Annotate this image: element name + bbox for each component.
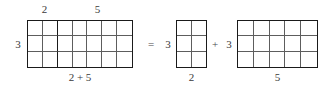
rect-b-cell <box>238 21 254 36</box>
sum-rect-cell <box>102 21 117 36</box>
sum-rect-top-label-left: 2 <box>27 3 62 15</box>
rect-b-cell <box>285 52 301 67</box>
rect-a-cell <box>177 52 192 67</box>
rect-b-cell <box>270 52 286 67</box>
rect-a-grid <box>176 20 207 68</box>
rect-b-cell <box>270 21 286 36</box>
sum-rect-cell <box>43 21 58 36</box>
rect-b-cell <box>254 21 270 36</box>
rect-b-cell <box>270 36 286 51</box>
rect-b-cell <box>238 36 254 51</box>
sum-rect-cell <box>87 21 102 36</box>
rect-b-bottom-label: 5 <box>237 71 318 83</box>
sum-rect-cell <box>117 36 132 51</box>
rect-b-cell <box>254 36 270 51</box>
rect-a-cell <box>192 36 207 51</box>
rect-a-cell <box>177 21 192 36</box>
sum-rect-cell <box>43 36 58 51</box>
sum-rect-cell <box>73 52 88 67</box>
sum-rect-bottom-label: 2 + 5 <box>53 71 107 83</box>
rect-b-cell <box>301 52 317 67</box>
rect-b-left-label: 3 <box>223 38 235 50</box>
sum-rectangle-grid <box>27 20 133 68</box>
rect-a-left-label: 3 <box>162 38 174 50</box>
sum-rect-cell <box>58 21 73 36</box>
sum-rect-cell <box>58 52 73 67</box>
rect-b-cell <box>254 52 270 67</box>
sum-rect-cell <box>73 36 88 51</box>
sum-rect-cell <box>43 52 58 67</box>
area-model-figure: 2 5 3 2 + 5 = 3 2 + 3 5 <box>0 0 329 89</box>
rect-b-cell <box>285 36 301 51</box>
rect-b-cell <box>301 21 317 36</box>
rect-a-cell <box>177 36 192 51</box>
sum-rect-cell <box>87 52 102 67</box>
sum-rect-cell <box>102 52 117 67</box>
sum-rect-cell <box>117 52 132 67</box>
rect-b-cell <box>301 36 317 51</box>
sum-rect-top-label-right: 5 <box>62 3 133 15</box>
rect-a-cell <box>192 52 207 67</box>
rect-b-cell <box>238 52 254 67</box>
sum-rect-left-label: 3 <box>12 38 24 50</box>
sum-rect-cell <box>117 21 132 36</box>
plus-operator: + <box>209 38 221 50</box>
rect-a-cell <box>192 21 207 36</box>
sum-rect-cell <box>28 52 43 67</box>
sum-rect-cell <box>102 36 117 51</box>
sum-rect-cell <box>87 36 102 51</box>
rect-b-cell <box>285 21 301 36</box>
sum-rect-cell <box>28 36 43 51</box>
rect-a-bottom-label: 2 <box>176 71 207 83</box>
sum-rect-cell <box>73 21 88 36</box>
rect-b-grid <box>237 20 318 68</box>
sum-rect-cell <box>58 36 73 51</box>
sum-rect-cell <box>28 21 43 36</box>
equals-operator: = <box>144 38 158 50</box>
